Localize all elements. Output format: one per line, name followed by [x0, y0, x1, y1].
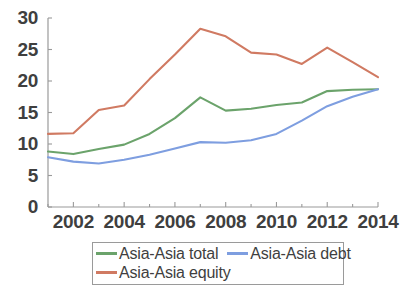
legend-row-1: Asia-Asia total Asia-Asia debt — [96, 244, 340, 263]
legend-label-asia-asia-total: Asia-Asia total — [119, 245, 218, 263]
chart-legend: Asia-Asia total Asia-Asia debt Asia-Asia… — [92, 242, 344, 285]
legend-item-asia-asia-total[interactable]: Asia-Asia total — [96, 245, 218, 263]
legend-label-asia-asia-debt: Asia-Asia debt — [250, 245, 350, 263]
legend-row-2: Asia-Asia equity — [96, 263, 340, 282]
y-tick-label-30: 30 — [4, 7, 38, 29]
legend-swatch-asia-asia-debt — [227, 252, 248, 255]
legend-swatch-asia-asia-total — [96, 252, 117, 255]
x-tick-label-2002: 2002 — [45, 211, 101, 233]
y-tick-label-5: 5 — [4, 165, 38, 187]
legend-label-asia-asia-equity: Asia-Asia equity — [119, 264, 231, 282]
x-tick-label-2008: 2008 — [198, 211, 254, 233]
x-tick-label-2014: 2014 — [350, 211, 404, 233]
y-tick-label-20: 20 — [4, 70, 38, 92]
x-tick-label-2006: 2006 — [147, 211, 203, 233]
legend-swatch-asia-asia-equity — [96, 271, 117, 274]
data-series-lines — [48, 29, 378, 164]
y-tick-label-10: 10 — [4, 133, 38, 155]
y-tick-label-25: 25 — [4, 39, 38, 61]
y-tick-label-15: 15 — [4, 102, 38, 124]
x-tick-label-2004: 2004 — [96, 211, 152, 233]
y-tick-label-0: 0 — [4, 196, 38, 218]
legend-item-asia-asia-equity[interactable]: Asia-Asia equity — [96, 264, 231, 282]
x-tick-label-2010: 2010 — [248, 211, 304, 233]
x-tick-label-2012: 2012 — [299, 211, 355, 233]
legend-item-asia-asia-debt[interactable]: Asia-Asia debt — [227, 245, 350, 263]
